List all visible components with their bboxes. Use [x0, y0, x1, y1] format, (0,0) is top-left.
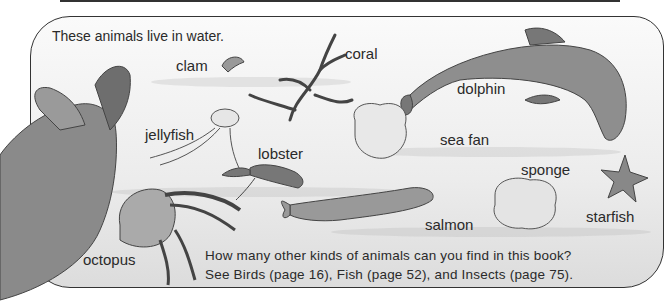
label-salmon: salmon [425, 216, 473, 233]
lobster-illustration [222, 165, 303, 200]
label-octopus: octopus [83, 251, 136, 268]
dolphin-illustration [401, 28, 626, 140]
coral-illustration [250, 35, 352, 120]
label-sea-fan: sea fan [440, 131, 489, 148]
starfish-illustration [601, 155, 648, 202]
label-sponge: sponge [521, 161, 570, 178]
label-jellyfish: jellyfish [145, 126, 194, 143]
label-dolphin: dolphin [457, 80, 505, 97]
clam-illustration [222, 57, 244, 72]
footer-question: How many other kinds of animals can you … [205, 246, 573, 284]
footer-line-2: See Birds (page 16), Fish (page 52), and… [205, 265, 573, 284]
label-clam: clam [176, 57, 208, 74]
sea-fan-illustration [354, 103, 406, 158]
intro-text: These animals live in water. [52, 28, 224, 44]
label-starfish: starfish [586, 208, 634, 225]
sponge-illustration [494, 178, 556, 229]
label-coral: coral [345, 45, 378, 62]
footer-line-1: How many other kinds of animals can you … [205, 246, 573, 265]
salmon-illustration [281, 188, 433, 221]
label-lobster: lobster [258, 145, 303, 162]
